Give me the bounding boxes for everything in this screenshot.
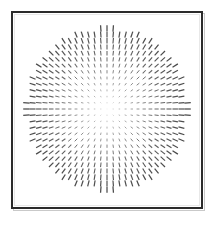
field-segment xyxy=(55,169,59,174)
field-segment xyxy=(119,70,120,73)
field-segment xyxy=(94,64,95,68)
field-segment xyxy=(62,139,66,142)
field-segment xyxy=(55,70,59,73)
field-segment xyxy=(155,127,159,129)
field-segment xyxy=(119,32,120,38)
field-segment xyxy=(143,45,146,50)
field-segment xyxy=(88,139,90,142)
field-segment xyxy=(75,151,78,155)
field-segment xyxy=(166,121,171,122)
field-segment xyxy=(55,57,59,61)
field-segment xyxy=(88,157,90,161)
field-segment xyxy=(68,151,71,155)
field-segment xyxy=(161,157,165,161)
field-segment xyxy=(167,57,172,61)
field-segment xyxy=(149,121,153,122)
field-segment xyxy=(143,57,146,61)
field-segment xyxy=(49,77,54,80)
field-segment xyxy=(143,174,146,179)
field-segment xyxy=(119,64,120,68)
field-segment xyxy=(55,163,59,167)
field-segment xyxy=(62,121,66,122)
field-segment xyxy=(178,139,184,141)
field-segment xyxy=(68,115,71,116)
field-segment xyxy=(161,145,166,148)
field-segment xyxy=(161,151,165,154)
field-segment xyxy=(125,32,126,38)
field-segment xyxy=(143,77,146,80)
field-segment xyxy=(36,70,41,73)
field-segment xyxy=(49,90,54,92)
field-segment xyxy=(88,70,90,73)
field-segment xyxy=(81,127,83,129)
field-segment xyxy=(119,89,120,91)
field-segment xyxy=(143,38,146,43)
field-segment xyxy=(42,121,47,122)
field-segment xyxy=(88,44,90,49)
field-segment xyxy=(131,157,133,161)
field-segment xyxy=(101,174,102,179)
field-segment xyxy=(143,103,146,104)
field-segment xyxy=(119,115,120,116)
field-segment xyxy=(88,168,90,173)
field-segment xyxy=(161,103,166,104)
field-segment xyxy=(81,96,83,97)
field-segment xyxy=(94,133,95,135)
field-segment xyxy=(94,127,95,129)
field-segment xyxy=(119,127,120,129)
field-segment xyxy=(119,96,120,97)
field-segment xyxy=(113,121,114,122)
field-segment xyxy=(143,64,146,68)
field-segment xyxy=(131,180,133,186)
field-segment xyxy=(137,96,140,97)
field-segment xyxy=(149,51,152,55)
field-segment xyxy=(36,133,41,135)
field-segment xyxy=(119,121,120,122)
field-segment xyxy=(155,133,159,135)
field-segment xyxy=(131,121,133,122)
field-segment xyxy=(36,90,41,91)
field-segment xyxy=(131,133,133,135)
field-segment xyxy=(137,77,140,80)
field-segment xyxy=(100,89,101,91)
field-segment xyxy=(125,38,126,43)
field-segment xyxy=(137,51,140,56)
field-segment xyxy=(137,174,139,179)
field-segment xyxy=(42,115,47,116)
field-segment xyxy=(75,139,78,142)
field-segment xyxy=(137,83,140,85)
field-segment xyxy=(113,44,114,49)
field-segment xyxy=(125,90,127,92)
field-segment xyxy=(131,174,133,179)
field-segment xyxy=(172,133,177,135)
field-segment xyxy=(173,151,178,154)
field-segment xyxy=(36,151,41,154)
field-segment xyxy=(131,70,133,73)
field-segment xyxy=(143,157,146,161)
field-segment xyxy=(119,157,120,161)
field-segment xyxy=(55,96,59,97)
field-segment xyxy=(101,168,102,173)
field-segment xyxy=(68,157,71,161)
field-segment xyxy=(100,115,101,116)
field-segment xyxy=(43,151,48,154)
field-segment xyxy=(55,64,59,68)
field-segment xyxy=(131,45,133,50)
field-segment xyxy=(68,51,71,56)
field-segment xyxy=(149,145,153,148)
field-segment xyxy=(155,121,159,122)
field-segment xyxy=(149,157,153,161)
field-segment xyxy=(155,83,159,85)
field-segment xyxy=(49,103,54,104)
field-segment xyxy=(155,103,159,104)
field-segment xyxy=(94,32,95,38)
field-segment xyxy=(55,133,59,135)
field-segment xyxy=(155,70,159,73)
field-segment xyxy=(143,96,146,97)
field-segment xyxy=(68,145,71,148)
field-segment xyxy=(119,44,120,49)
field-segment xyxy=(36,64,41,67)
field-segment xyxy=(166,96,171,97)
field-segment xyxy=(75,83,78,85)
field-segment xyxy=(36,115,41,116)
